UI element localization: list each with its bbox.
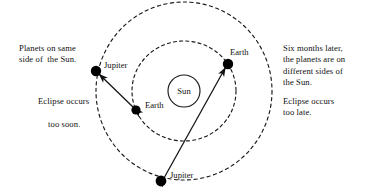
eclipse-timing-diagram: Sun Jupiter Earth Earth Jupiter Planets … (0, 0, 374, 196)
earth-left-label: Earth (145, 100, 164, 110)
note-eclipse-too-soon-line2: too soon. (29, 119, 89, 130)
jupiter-left-label: Jupiter (104, 60, 127, 70)
earth-left-dot (131, 105, 140, 114)
jupiter-bottom-dot (156, 176, 167, 187)
note-eclipse-too-soon-line1: Eclipse occurs (38, 96, 89, 106)
jupiter-left-dot (91, 66, 101, 76)
note-six-months-later: Six months later, the planets are on dif… (283, 43, 345, 89)
sun-label: Sun (172, 86, 196, 96)
earth-right-label: Earth (230, 47, 249, 57)
same-side-sightline (99, 74, 135, 109)
note-planets-same-side: Planets on same side of the Sun. (19, 43, 76, 66)
jupiter-bottom-label: Jupiter (170, 170, 193, 180)
earth-right-dot (223, 59, 233, 69)
note-eclipse-too-late: Eclipse occurs too late. (283, 96, 334, 119)
note-eclipse-too-soon: Eclipse occurs too soon. (29, 85, 89, 153)
